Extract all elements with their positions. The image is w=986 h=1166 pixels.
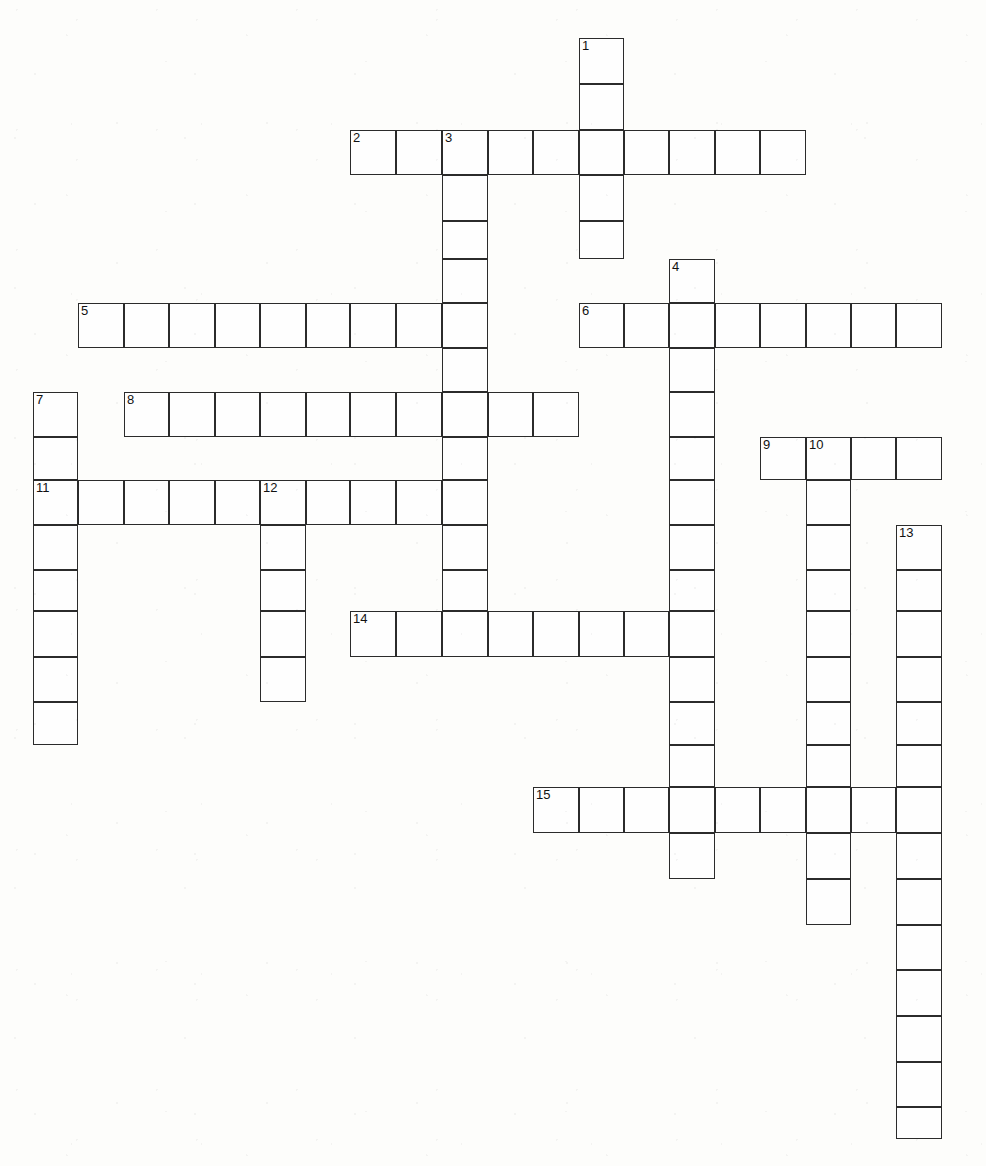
crossword-cell[interactable]	[669, 787, 715, 833]
crossword-cell[interactable]	[488, 611, 533, 657]
crossword-cell[interactable]	[579, 84, 624, 130]
crossword-cell[interactable]	[442, 348, 488, 392]
crossword-cell[interactable]	[215, 480, 260, 525]
crossword-cell[interactable]	[442, 570, 488, 611]
crossword-cell[interactable]	[169, 303, 215, 348]
crossword-cell[interactable]	[215, 303, 260, 348]
crossword-cell[interactable]	[488, 392, 533, 437]
crossword-cell[interactable]	[579, 175, 624, 221]
crossword-cell[interactable]	[442, 392, 488, 437]
crossword-cell[interactable]	[169, 392, 215, 437]
crossword-cell[interactable]	[851, 787, 896, 833]
crossword-cell[interactable]	[579, 787, 624, 833]
crossword-cell[interactable]	[260, 392, 306, 437]
crossword-cell[interactable]	[806, 657, 851, 702]
crossword-cell[interactable]	[806, 879, 851, 925]
crossword-cell[interactable]: 4	[669, 259, 715, 303]
crossword-cell[interactable]	[624, 611, 669, 657]
crossword-cell[interactable]	[442, 525, 488, 570]
crossword-cell[interactable]	[442, 480, 488, 525]
crossword-cell[interactable]	[851, 303, 896, 348]
crossword-cell[interactable]	[33, 702, 78, 745]
crossword-cell[interactable]	[896, 879, 942, 925]
crossword-cell[interactable]	[896, 833, 942, 879]
crossword-cell[interactable]	[215, 392, 260, 437]
crossword-cell[interactable]	[896, 657, 942, 702]
crossword-cell[interactable]	[896, 1016, 942, 1062]
crossword-cell[interactable]	[624, 303, 669, 348]
crossword-cell[interactable]	[33, 611, 78, 657]
crossword-cell[interactable]	[33, 525, 78, 570]
crossword-cell[interactable]	[806, 833, 851, 879]
crossword-cell[interactable]	[533, 392, 579, 437]
crossword-cell[interactable]	[396, 130, 442, 175]
crossword-cell[interactable]	[669, 437, 715, 480]
crossword-cell[interactable]	[396, 611, 442, 657]
crossword-cell[interactable]	[669, 130, 715, 175]
crossword-cell[interactable]	[260, 611, 306, 657]
crossword-cell[interactable]	[896, 437, 942, 480]
crossword-cell[interactable]	[669, 392, 715, 437]
crossword-cell[interactable]	[169, 480, 215, 525]
crossword-cell[interactable]	[760, 303, 806, 348]
crossword-cell[interactable]: 3	[442, 130, 488, 175]
crossword-cell[interactable]	[396, 392, 442, 437]
crossword-cell[interactable]	[896, 745, 942, 787]
crossword-cell[interactable]	[579, 611, 624, 657]
crossword-cell[interactable]	[896, 970, 942, 1016]
crossword-cell[interactable]: 14	[350, 611, 396, 657]
crossword-cell[interactable]	[350, 392, 396, 437]
crossword-cell[interactable]: 11	[33, 480, 78, 525]
crossword-cell[interactable]: 5	[78, 303, 124, 348]
crossword-cell[interactable]: 10	[806, 437, 851, 480]
crossword-cell[interactable]	[442, 611, 488, 657]
crossword-cell[interactable]	[669, 657, 715, 702]
crossword-cell[interactable]	[669, 525, 715, 570]
crossword-cell[interactable]	[350, 480, 396, 525]
crossword-cell[interactable]	[806, 480, 851, 525]
crossword-cell[interactable]	[260, 657, 306, 702]
crossword-cell[interactable]	[533, 130, 579, 175]
crossword-cell[interactable]	[442, 259, 488, 303]
crossword-cell[interactable]: 6	[579, 303, 624, 348]
crossword-cell[interactable]	[806, 702, 851, 745]
crossword-cell[interactable]	[806, 525, 851, 570]
crossword-cell[interactable]	[124, 480, 169, 525]
crossword-cell[interactable]	[124, 303, 169, 348]
crossword-cell[interactable]	[806, 611, 851, 657]
crossword-cell[interactable]	[896, 570, 942, 611]
crossword-cell[interactable]	[806, 745, 851, 787]
crossword-cell[interactable]	[806, 570, 851, 611]
crossword-cell[interactable]	[306, 480, 350, 525]
crossword-cell[interactable]	[396, 480, 442, 525]
crossword-cell[interactable]: 12	[260, 480, 306, 525]
crossword-cell[interactable]	[715, 303, 760, 348]
crossword-cell[interactable]	[624, 787, 669, 833]
crossword-cell[interactable]: 2	[350, 130, 396, 175]
crossword-cell[interactable]	[33, 437, 78, 480]
crossword-cell[interactable]: 13	[896, 525, 942, 570]
crossword-cell[interactable]	[896, 702, 942, 745]
crossword-cell[interactable]	[669, 745, 715, 787]
crossword-cell[interactable]: 1	[579, 38, 624, 84]
crossword-cell[interactable]	[669, 348, 715, 392]
crossword-cell[interactable]	[442, 175, 488, 221]
crossword-cell[interactable]	[488, 130, 533, 175]
crossword-cell[interactable]	[396, 303, 442, 348]
crossword-cell[interactable]	[442, 303, 488, 348]
crossword-cell[interactable]	[715, 787, 760, 833]
crossword-cell[interactable]	[350, 303, 396, 348]
crossword-cell[interactable]	[806, 303, 851, 348]
crossword-cell[interactable]	[669, 303, 715, 348]
crossword-cell[interactable]	[78, 480, 124, 525]
crossword-cell[interactable]: 15	[533, 787, 579, 833]
crossword-cell[interactable]	[669, 611, 715, 657]
crossword-cell[interactable]	[33, 657, 78, 702]
crossword-cell[interactable]	[579, 221, 624, 259]
crossword-cell[interactable]	[669, 702, 715, 745]
crossword-cell[interactable]	[442, 221, 488, 259]
crossword-cell[interactable]	[533, 611, 579, 657]
crossword-cell[interactable]	[260, 525, 306, 570]
crossword-cell[interactable]	[760, 130, 806, 175]
crossword-cell[interactable]: 9	[760, 437, 806, 480]
